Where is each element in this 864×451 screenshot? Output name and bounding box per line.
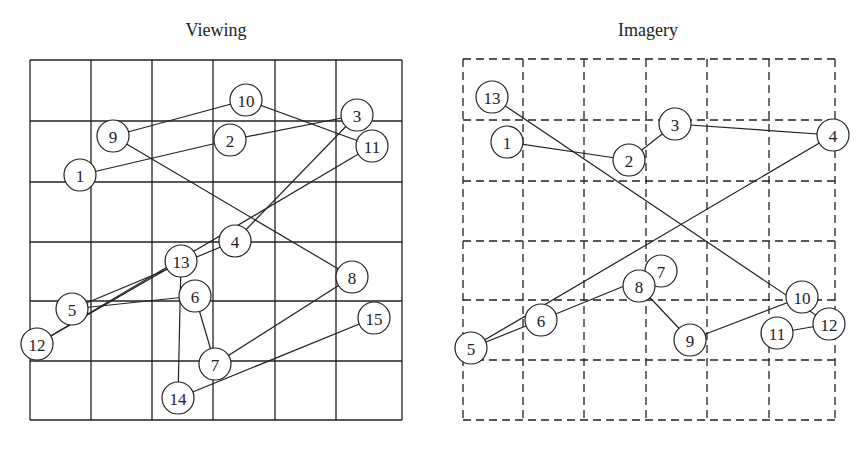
edge-3-4 <box>675 124 833 135</box>
node-1: 1 <box>491 126 523 158</box>
node-15: 15 <box>358 302 390 334</box>
svg-text:1: 1 <box>76 167 85 186</box>
node-8: 8 <box>623 270 655 302</box>
imagery-edges <box>471 97 833 348</box>
svg-text:7: 7 <box>211 356 220 375</box>
svg-text:5: 5 <box>68 301 77 320</box>
node-10: 10 <box>786 281 818 313</box>
svg-text:8: 8 <box>348 269 357 288</box>
svg-text:14: 14 <box>170 390 188 409</box>
svg-text:3: 3 <box>353 107 362 126</box>
node-12: 12 <box>21 328 53 360</box>
node-6: 6 <box>525 304 557 336</box>
svg-text:5: 5 <box>467 340 476 359</box>
svg-text:6: 6 <box>537 312 546 331</box>
svg-text:2: 2 <box>625 152 634 171</box>
svg-text:15: 15 <box>366 310 383 329</box>
node-3: 3 <box>659 108 691 140</box>
diagram-canvas: 12345678910111213141512345678910111213 <box>0 0 864 451</box>
svg-text:11: 11 <box>769 325 785 344</box>
node-11: 11 <box>761 317 793 349</box>
node-9: 9 <box>674 324 706 356</box>
node-11: 11 <box>356 130 388 162</box>
node-5: 5 <box>56 293 88 325</box>
svg-text:9: 9 <box>109 128 118 147</box>
svg-text:11: 11 <box>364 138 380 157</box>
node-6: 6 <box>179 280 211 312</box>
node-7: 7 <box>199 348 231 380</box>
svg-text:12: 12 <box>29 336 46 355</box>
node-13: 13 <box>476 81 508 113</box>
node-4: 4 <box>219 225 251 257</box>
svg-text:9: 9 <box>686 332 695 351</box>
svg-text:1: 1 <box>503 134 512 153</box>
node-5: 5 <box>455 332 487 364</box>
svg-text:4: 4 <box>829 127 838 146</box>
edge-7-8 <box>215 277 352 364</box>
svg-text:4: 4 <box>231 233 240 252</box>
node-14: 14 <box>162 382 194 414</box>
svg-text:6: 6 <box>191 288 200 307</box>
node-2: 2 <box>613 144 645 176</box>
svg-text:7: 7 <box>657 263 666 282</box>
node-2: 2 <box>214 124 246 156</box>
node-3: 3 <box>341 99 373 131</box>
svg-text:3: 3 <box>671 116 680 135</box>
node-4: 4 <box>817 119 849 151</box>
svg-text:13: 13 <box>484 89 501 108</box>
svg-text:12: 12 <box>821 316 838 335</box>
node-10: 10 <box>230 84 262 116</box>
node-9: 9 <box>97 120 129 152</box>
node-1: 1 <box>64 159 96 191</box>
svg-text:2: 2 <box>226 132 235 151</box>
node-8: 8 <box>336 261 368 293</box>
edge-13-14 <box>178 261 181 398</box>
svg-text:13: 13 <box>173 253 190 272</box>
svg-text:8: 8 <box>635 278 644 297</box>
node-12: 12 <box>813 308 845 340</box>
svg-text:10: 10 <box>794 289 811 308</box>
svg-text:10: 10 <box>238 92 255 111</box>
edge-1-2 <box>507 142 629 160</box>
node-13: 13 <box>165 245 197 277</box>
edge-2-3 <box>230 115 357 140</box>
imagery-grid <box>463 59 835 420</box>
